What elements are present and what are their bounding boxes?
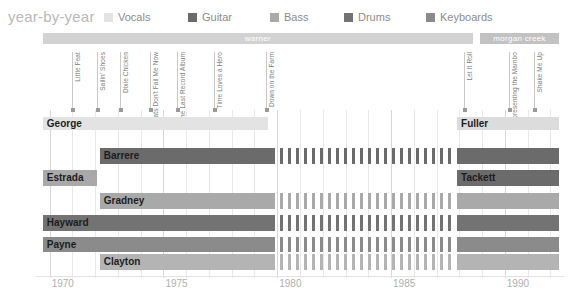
album-stem (72, 52, 73, 110)
member-row-payne[interactable]: Payne (0, 237, 569, 252)
album-stem (266, 52, 267, 110)
x-axis-tick-1975: 1975 (165, 278, 187, 289)
timeline-segment-dashed (280, 193, 453, 209)
timeline-segment-solid (457, 215, 559, 231)
album-dot-icon (119, 108, 123, 112)
member-name-label: Hayward (43, 215, 89, 231)
album-title: Dixie Chicken (122, 52, 129, 93)
member-name-label: Clayton (100, 254, 141, 270)
x-axis-tick-1985: 1985 (393, 278, 415, 289)
album-dot-icon (533, 108, 537, 112)
member-name-label: Gradney (100, 193, 145, 209)
album-stem (150, 52, 151, 110)
year-by-year-chart: year-by-year VocalsGuitarBassDrumsKeyboa… (0, 0, 569, 304)
x-axis: 19701975198019851990 (0, 278, 569, 298)
album-title: Feats Don't Fail Me Now (152, 52, 159, 125)
timeline-segment-solid (457, 148, 559, 164)
album-title: Shake Me Up (536, 52, 543, 92)
album-title: Time Loves a Hero (216, 52, 223, 108)
album-dot-icon (265, 108, 269, 112)
member-row-clayton[interactable]: Clayton (0, 254, 569, 270)
x-axis-tick-1980: 1980 (279, 278, 301, 289)
timeline-segment-dashed (280, 215, 453, 231)
album-stem (509, 52, 510, 110)
album-title: The Last Record Album (179, 52, 186, 122)
member-name-label: Estrada (43, 170, 84, 186)
timeline-segment-solid (43, 237, 275, 252)
record-label-bar-morgan-creek: morgan creek (480, 33, 560, 44)
member-name-label: George (43, 117, 82, 130)
plot-area: warnermorgan creekLittle FeatSailin' Sho… (0, 0, 569, 304)
member-name-label: Barrere (100, 148, 140, 164)
x-axis-tick-1990: 1990 (507, 278, 529, 289)
member-row-hayward[interactable]: Hayward (0, 215, 569, 231)
timeline-segment-solid (457, 254, 559, 270)
timeline-segment-solid (457, 193, 559, 209)
album-stem (120, 52, 121, 110)
member-row-tackett[interactable]: Tackett (0, 170, 569, 186)
album-stem (177, 52, 178, 110)
timeline-segment-solid (457, 237, 559, 252)
record-label-text: warner (245, 33, 271, 44)
axis-baseline (36, 276, 564, 277)
album-title: Sailin' Shoes (99, 52, 106, 91)
album-stem (214, 52, 215, 110)
member-name-label: Fuller (457, 117, 488, 130)
member-name-label: Payne (43, 237, 76, 252)
timeline-segment-dashed (280, 254, 453, 270)
member-row-gradney[interactable]: Gradney (0, 193, 569, 209)
album-dot-icon (213, 108, 217, 112)
album-stem (534, 52, 535, 110)
record-label-text: morgan creek (493, 33, 546, 44)
album-stem (464, 52, 465, 110)
album-dot-icon (96, 108, 100, 112)
member-name-label: Tackett (457, 170, 495, 186)
x-axis-tick-1970: 1970 (52, 278, 74, 289)
timeline-segment-dashed (280, 148, 453, 164)
album-title: Down on the Farm (268, 52, 275, 107)
album-stem (97, 52, 98, 110)
record-label-bar-warner: warner (43, 33, 473, 44)
timeline-segment-dashed (280, 237, 453, 252)
album-dot-icon (463, 108, 467, 112)
album-dot-icon (71, 108, 75, 112)
album-title: Let It Roll (466, 52, 473, 81)
member-row-barrere[interactable]: Barrere (0, 148, 569, 164)
album-title: Representing the Mambo (511, 52, 518, 127)
album-title: Little Feat (74, 52, 81, 82)
member-row-fuller[interactable]: Fuller (0, 117, 569, 130)
